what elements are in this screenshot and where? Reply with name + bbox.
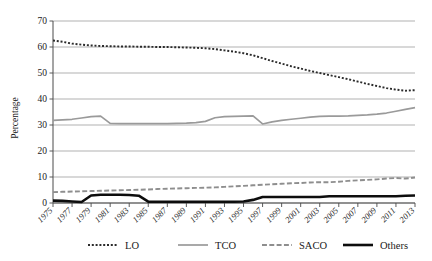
- legend-label-tco: TCO: [215, 240, 236, 251]
- legend-label-saco: SACO: [299, 240, 327, 251]
- legend-label-others: Others: [380, 240, 408, 251]
- y-tick-label: 50: [38, 68, 48, 78]
- percentage-line-chart: 010203040506070 197519771979198119831985…: [0, 0, 432, 261]
- y-tick-label: 40: [38, 94, 48, 104]
- y-tick-label: 30: [38, 120, 48, 130]
- y-tick-label: 20: [38, 146, 48, 156]
- y-axis-title: Percentage: [10, 97, 20, 139]
- y-tick-label: 70: [38, 16, 48, 26]
- y-tick-label: 60: [38, 42, 48, 52]
- legend-label-lo: LO: [125, 240, 139, 251]
- y-tick-label: 10: [38, 172, 48, 182]
- y-axis-title-text: Percentage: [10, 97, 20, 139]
- chart-container: 010203040506070 197519771979198119831985…: [0, 0, 432, 261]
